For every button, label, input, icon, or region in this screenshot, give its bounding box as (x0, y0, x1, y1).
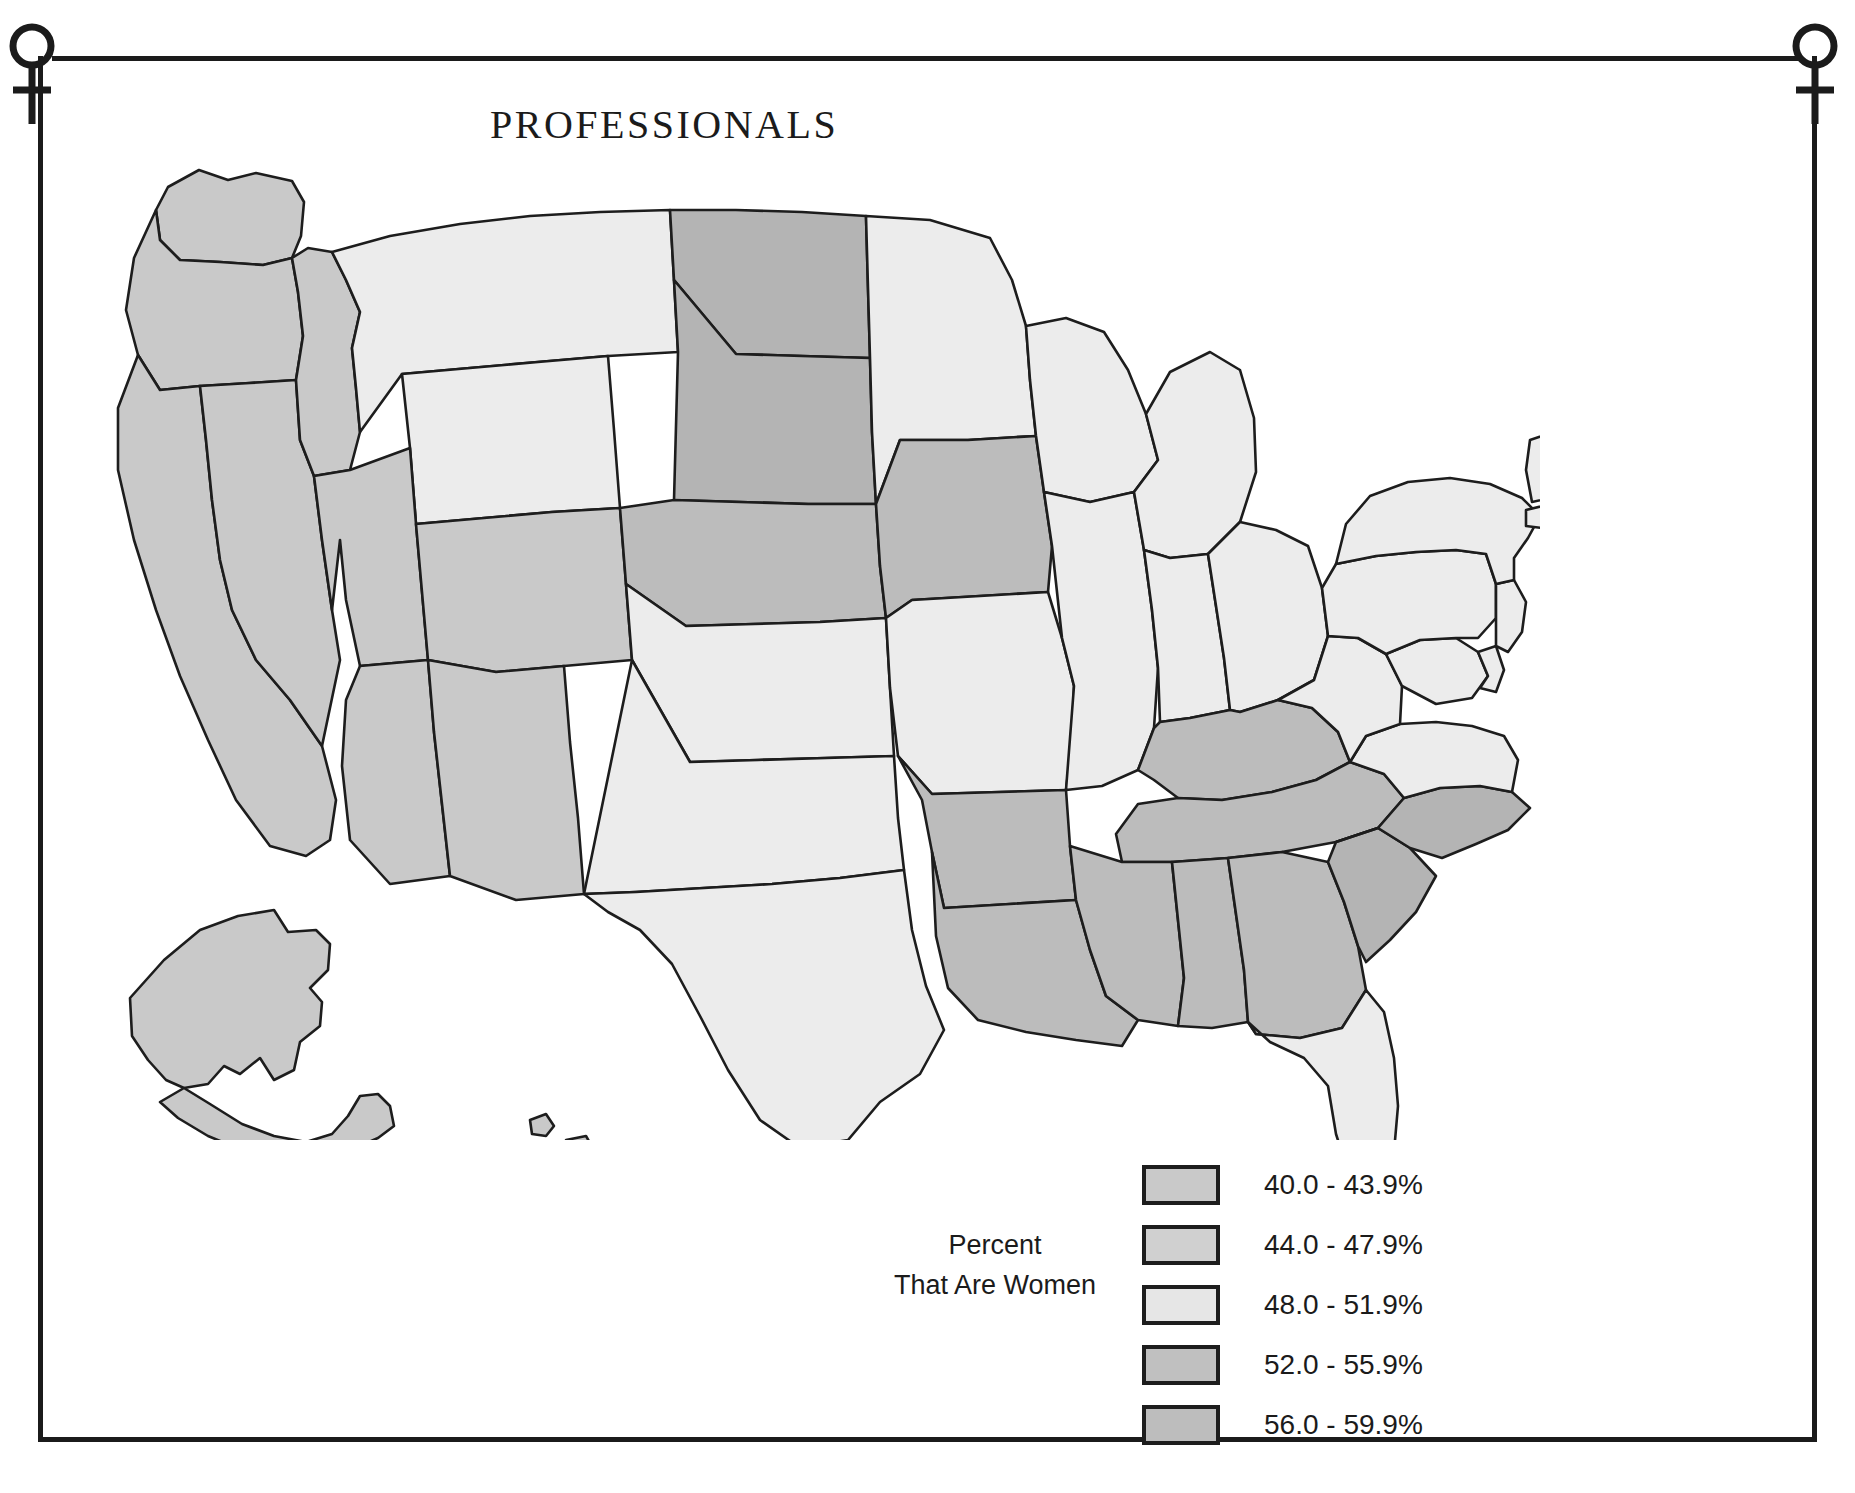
legend-title: Percent That Are Women (860, 1225, 1130, 1305)
legend-items: 40.0 - 43.9%44.0 - 47.9%48.0 - 51.9%52.0… (1142, 1165, 1423, 1465)
map-region-wi[interactable]: Wisconsin — 48.0 - 51.9% (1026, 318, 1158, 502)
venus-symbol-icon (2, 18, 62, 128)
legend-swatch (1142, 1165, 1220, 1205)
map-region-hi[interactable]: Hawaii — 44.0 - 47.9% (566, 1136, 594, 1140)
map-region-hi[interactable]: Hawaii — 44.0 - 47.9% (530, 1114, 554, 1136)
map-region-vt[interactable]: Vermont — 48.0 - 51.9% (1526, 432, 1540, 502)
legend-swatch (1142, 1225, 1220, 1265)
map-region-ak[interactable]: Alaska — 44.0 - 47.9% (130, 910, 330, 1088)
map-region-ia[interactable]: Iowa — 52.0 - 55.9% (876, 436, 1052, 618)
legend-row: 56.0 - 59.9% (1142, 1405, 1423, 1445)
legend-label: 44.0 - 47.9% (1264, 1229, 1423, 1261)
map-region-nj[interactable]: New Jersey — 48.0 - 51.9% (1496, 580, 1526, 652)
map-legend: Percent That Are Women 40.0 - 43.9%44.0 … (860, 1165, 1420, 1465)
legend-label: 52.0 - 55.9% (1264, 1349, 1423, 1381)
legend-row: 44.0 - 47.9% (1142, 1225, 1423, 1265)
map-page: PROFESSIONALS Washington — 44.0 - 47.9%O… (0, 0, 1855, 1493)
map-region-tx[interactable]: Texas — 48.0 - 51.9% (584, 870, 944, 1140)
legend-swatch (1142, 1285, 1220, 1325)
frame-left-rule (38, 56, 43, 1442)
map-region-wa[interactable]: Washington — 44.0 - 47.9% (156, 170, 304, 265)
frame-top-rule (52, 56, 1802, 61)
legend-swatch (1142, 1405, 1220, 1445)
legend-label: 48.0 - 51.9% (1264, 1289, 1423, 1321)
map-region-wy[interactable]: Wyoming — 48.0 - 51.9% (402, 356, 620, 524)
legend-row: 40.0 - 43.9% (1142, 1165, 1423, 1205)
map-region-co[interactable]: Colorado — 44.0 - 47.9% (416, 508, 632, 672)
legend-row: 48.0 - 51.9% (1142, 1285, 1423, 1325)
frame-right-rule (1812, 56, 1817, 1442)
legend-label: 40.0 - 43.9% (1264, 1169, 1423, 1201)
map-region-pa[interactable]: Pennsylvania — 48.0 - 51.9% (1322, 550, 1496, 654)
choropleth-map: Washington — 44.0 - 47.9%Oregon — 44.0 -… (60, 140, 1540, 1140)
legend-label: 56.0 - 59.9% (1264, 1409, 1423, 1441)
legend-title-line-2: That Are Women (860, 1265, 1130, 1305)
map-region-ak[interactable]: Alaska — 44.0 - 47.9% (160, 1088, 394, 1140)
legend-row: 52.0 - 55.9% (1142, 1345, 1423, 1385)
map-region-mo[interactable]: Missouri — 48.0 - 51.9% (886, 592, 1074, 794)
legend-title-line-1: Percent (860, 1225, 1130, 1265)
legend-swatch (1142, 1345, 1220, 1385)
venus-symbol-icon (1785, 18, 1845, 128)
map-region-nm[interactable]: New Mexico — 44.0 - 47.9% (428, 660, 584, 900)
